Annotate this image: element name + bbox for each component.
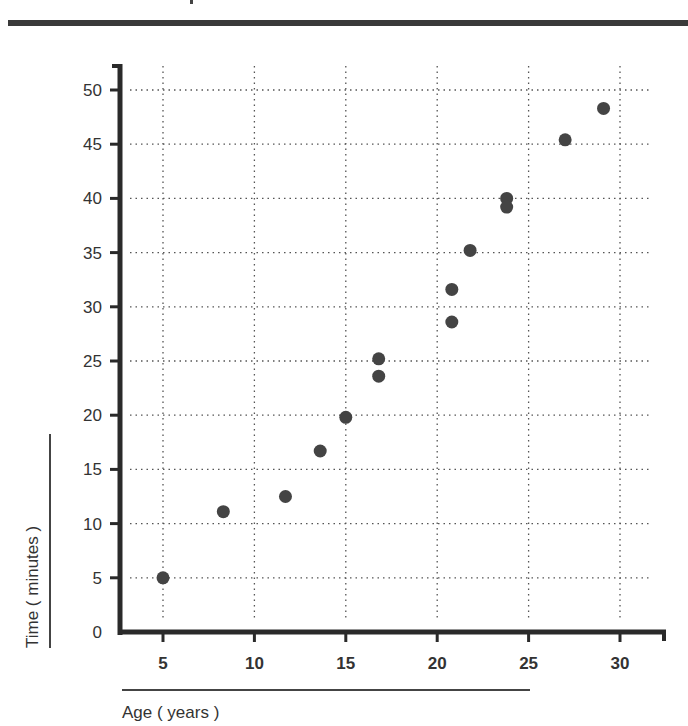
x-tick-label: 30 (611, 654, 630, 673)
x-tick-label: 10 (245, 654, 264, 673)
data-point (372, 370, 385, 383)
data-point (559, 133, 572, 146)
y-tick-label: 45 (83, 135, 102, 154)
data-point (597, 102, 610, 115)
data-point (464, 244, 477, 257)
y-tick-label: 40 (83, 189, 102, 208)
y-axis-ticks: 05101520253035404550 (83, 81, 120, 642)
axes (112, 64, 666, 641)
data-point (279, 490, 292, 503)
y-axis-title: Time ( minutes ) (23, 526, 42, 648)
data-point (217, 505, 230, 518)
y-tick-label: 5 (93, 569, 102, 588)
x-tick-label: 5 (158, 654, 167, 673)
data-point (314, 444, 327, 457)
y-tick-label: 20 (83, 406, 102, 425)
y-tick-label: 0 (93, 623, 102, 642)
x-tick-label: 20 (428, 654, 447, 673)
x-axis-title: Age ( years ) (122, 703, 219, 722)
data-point (500, 201, 513, 214)
x-axis-ticks: 51015202530 (158, 632, 629, 673)
y-tick-label: 30 (83, 298, 102, 317)
data-point (339, 411, 352, 424)
scatter-chart: 05101520253035404550 51015202530 Age ( y… (0, 0, 688, 726)
grid-lines (130, 66, 652, 620)
data-points (157, 102, 611, 584)
data-point (445, 283, 458, 296)
x-tick-label: 25 (519, 654, 538, 673)
data-point (157, 571, 170, 584)
data-point (372, 352, 385, 365)
data-point (445, 315, 458, 328)
y-tick-label: 35 (83, 244, 102, 263)
y-tick-label: 25 (83, 352, 102, 371)
y-tick-label: 10 (83, 515, 102, 534)
x-tick-label: 15 (336, 654, 355, 673)
y-tick-label: 50 (83, 81, 102, 100)
y-tick-label: 15 (83, 460, 102, 479)
